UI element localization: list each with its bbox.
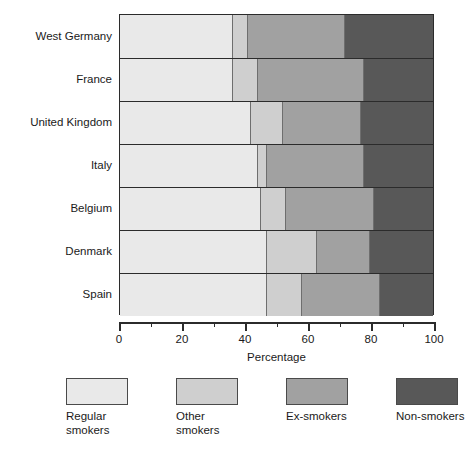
x-axis-major-tick (182, 322, 184, 331)
x-axis-minor-tick (403, 322, 405, 327)
legend-label: Non-smokers (396, 410, 471, 424)
bar-segment (380, 274, 433, 316)
category-label: Denmark (2, 245, 112, 257)
bar-row (120, 101, 433, 144)
x-axis-minor-tick (340, 322, 342, 327)
x-axis-tick-label: 40 (225, 333, 265, 345)
bar-row (120, 144, 433, 187)
x-axis-minor-tick (151, 322, 153, 327)
legend-item: Ex-smokers (286, 378, 394, 424)
bar-segment (370, 231, 433, 273)
bar-segment (267, 231, 317, 273)
x-axis-tick-label: 0 (99, 333, 139, 345)
plot-area (119, 14, 434, 315)
bar-segment (261, 188, 286, 230)
bar-segment (233, 15, 249, 58)
x-axis-title: Percentage (119, 351, 434, 363)
category-axis-labels: West GermanyFranceUnited KingdomItalyBel… (0, 14, 112, 315)
x-axis-tick-label: 20 (162, 333, 202, 345)
x-axis-major-tick (434, 322, 436, 331)
category-label: Belgium (2, 202, 112, 214)
category-label: Spain (2, 288, 112, 300)
bar-segment (248, 15, 345, 58)
x-axis-minor-tick (277, 322, 279, 327)
x-axis (119, 322, 434, 332)
x-axis-minor-tick (214, 322, 216, 327)
legend-item: Regular smokers (66, 378, 174, 437)
bar-segment (120, 231, 267, 273)
bar-segment (345, 15, 433, 58)
bar-segment (233, 59, 258, 101)
bar-segment (120, 15, 233, 58)
bar-segment (302, 274, 380, 316)
legend-swatch (286, 378, 348, 405)
x-axis-major-tick (119, 322, 121, 331)
chart-legend: Regular smokersOther smokersEx-smokersNo… (0, 378, 471, 450)
bar-row (120, 230, 433, 273)
bar-segment (286, 188, 374, 230)
legend-item: Other smokers (176, 378, 284, 437)
x-axis-major-tick (371, 322, 373, 331)
x-axis-major-tick (308, 322, 310, 331)
legend-label: Regular smokers (66, 410, 174, 437)
category-label: Italy (2, 159, 112, 171)
bar-row (120, 187, 433, 230)
bar-segment (283, 102, 361, 144)
legend-label: Other smokers (176, 410, 284, 437)
x-axis-tick-label: 60 (288, 333, 328, 345)
bar-segment (120, 274, 267, 316)
category-label: United Kingdom (2, 116, 112, 128)
category-label: West Germany (2, 30, 112, 42)
bar-segment (251, 102, 282, 144)
legend-swatch (396, 378, 458, 405)
bar-segment (258, 59, 364, 101)
legend-label: Ex-smokers (286, 410, 394, 424)
bar-segment (374, 188, 433, 230)
bar-segment (317, 231, 370, 273)
bar-row (120, 58, 433, 101)
bar-row (120, 15, 433, 58)
bar-segment (267, 145, 364, 187)
bar-row (120, 273, 433, 316)
bar-segment (120, 102, 251, 144)
bar-segment (364, 59, 433, 101)
bar-segment (258, 145, 267, 187)
x-axis-tick-label: 80 (351, 333, 391, 345)
stacked-bar-chart: West GermanyFranceUnited KingdomItalyBel… (0, 0, 471, 460)
legend-swatch (176, 378, 238, 405)
bar-segment (267, 274, 301, 316)
bar-segment (361, 102, 433, 144)
bar-segment (120, 59, 233, 101)
bar-segment (364, 145, 433, 187)
category-label: France (2, 73, 112, 85)
legend-swatch (66, 378, 128, 405)
legend-item: Non-smokers (396, 378, 471, 424)
bar-segment (120, 145, 258, 187)
x-axis-tick-label: 100 (414, 333, 454, 345)
x-axis-major-tick (245, 322, 247, 331)
bar-segment (120, 188, 261, 230)
